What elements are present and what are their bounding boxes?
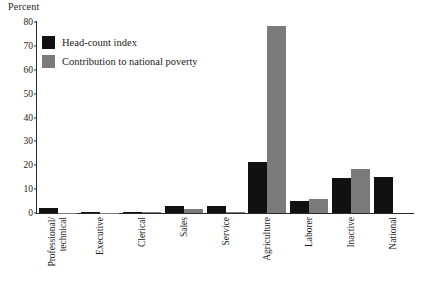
y-axis-title: Percent: [8, 1, 39, 13]
legend-swatch-gray: [42, 55, 55, 68]
y-tick-label: 60: [24, 65, 34, 75]
bar: [290, 201, 309, 213]
x-axis-label-text: Agriculture: [262, 217, 273, 261]
x-axis-label: Laborer: [288, 215, 330, 291]
bar: [332, 178, 351, 213]
x-axis-label: Service: [205, 215, 247, 291]
x-axis-label-text: National: [388, 217, 399, 250]
bar-group: [372, 22, 414, 213]
x-axis-label-text: Sales: [178, 217, 189, 237]
y-tick-label: 80: [24, 17, 34, 27]
legend-swatch-black: [42, 36, 55, 49]
y-tick-label: 40: [24, 113, 34, 123]
y-tick-label: 30: [24, 136, 34, 146]
bar: [81, 212, 100, 213]
bar: [184, 209, 203, 213]
bar: [142, 212, 161, 213]
y-tick-label: 50: [24, 89, 34, 99]
bar: [267, 26, 286, 213]
x-axis-label: Professional/ technical: [37, 215, 79, 291]
x-axis-label-text: Professional/ technical: [47, 217, 69, 267]
legend-label: Head-count index: [62, 36, 137, 49]
legend-label: Contribution to national poverty: [62, 55, 198, 68]
x-axis-label: Clerical: [121, 215, 163, 291]
x-axis-label-text: Clerical: [136, 217, 147, 247]
chart-legend: Head-count indexContribution to national…: [42, 34, 198, 72]
x-axis-label: Sales: [163, 215, 205, 291]
bar-chart: Percent 01020304050607080 Professional/ …: [0, 0, 424, 292]
x-axis-label-text: Service: [220, 217, 231, 246]
bar: [351, 169, 370, 213]
bar-group: [205, 22, 247, 213]
bar: [123, 212, 142, 213]
x-axis-label-text: Executive: [94, 217, 105, 255]
bar-group: [246, 22, 288, 213]
x-axis-label: Inactive: [330, 215, 372, 291]
x-axis-label: National: [372, 215, 414, 291]
bar: [309, 199, 328, 213]
bar: [39, 208, 58, 213]
y-tick-label: 10: [24, 184, 34, 194]
legend-item: Contribution to national poverty: [42, 53, 198, 69]
bar: [248, 162, 267, 213]
y-tick-label: 0: [28, 208, 33, 218]
bar: [226, 212, 245, 213]
bar: [207, 206, 226, 213]
x-axis-label-text: Laborer: [304, 217, 315, 247]
bar-group: [330, 22, 372, 213]
bar-group: [288, 22, 330, 213]
x-axis-labels: Professional/ technicalExecutiveClerical…: [37, 215, 414, 291]
x-axis-label: Agriculture: [246, 215, 288, 291]
bar: [165, 206, 184, 213]
y-tick-label: 20: [24, 160, 34, 170]
legend-item: Head-count index: [42, 34, 198, 50]
x-axis-line: [36, 213, 414, 214]
x-axis-label-text: Inactive: [346, 217, 357, 248]
y-tick-label: 70: [24, 41, 34, 51]
x-axis-label: Executive: [79, 215, 121, 291]
bar: [374, 177, 393, 213]
